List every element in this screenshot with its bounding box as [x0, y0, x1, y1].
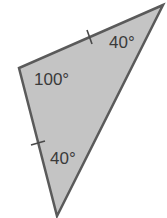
angle-label-left: 100°	[34, 70, 69, 89]
angle-label-bottom: 40°	[50, 149, 76, 168]
triangle-shape	[19, 5, 163, 216]
triangle-diagram: 40° 100° 40°	[0, 0, 167, 218]
angle-label-top-right: 40°	[109, 33, 135, 52]
